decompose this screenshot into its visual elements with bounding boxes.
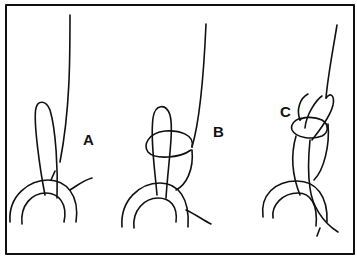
panel-a-standing-line (60, 15, 70, 162)
knot-diagram: A B C (0, 0, 357, 261)
panel-a-drawing (10, 15, 92, 224)
panel-b-drawing (122, 24, 211, 228)
panel-a-tag-end (70, 178, 92, 190)
diagram-frame (6, 5, 354, 254)
panel-b-ring-inner (134, 198, 177, 228)
panel-c-left-strand (293, 136, 300, 195)
panel-a-base-cross (51, 171, 55, 180)
panel-b-standing-line (192, 24, 206, 147)
panel-c-ring-tick (317, 228, 320, 236)
panel-c-ring-inner (273, 193, 317, 226)
panel-a-ring-inner (22, 193, 65, 224)
panel-b-label: B (213, 124, 224, 139)
panel-a-loop (35, 102, 57, 198)
knot-diagram-drawing (0, 0, 357, 261)
panel-c-standing-line (326, 25, 337, 98)
panel-b-tag-end (186, 210, 211, 224)
panel-a-label: A (83, 132, 94, 147)
panel-c-label: C (280, 104, 291, 119)
panel-c-drawing (263, 25, 338, 236)
panel-c-knot-upper-left (298, 94, 308, 120)
panel-c-knot-cross (305, 96, 322, 128)
